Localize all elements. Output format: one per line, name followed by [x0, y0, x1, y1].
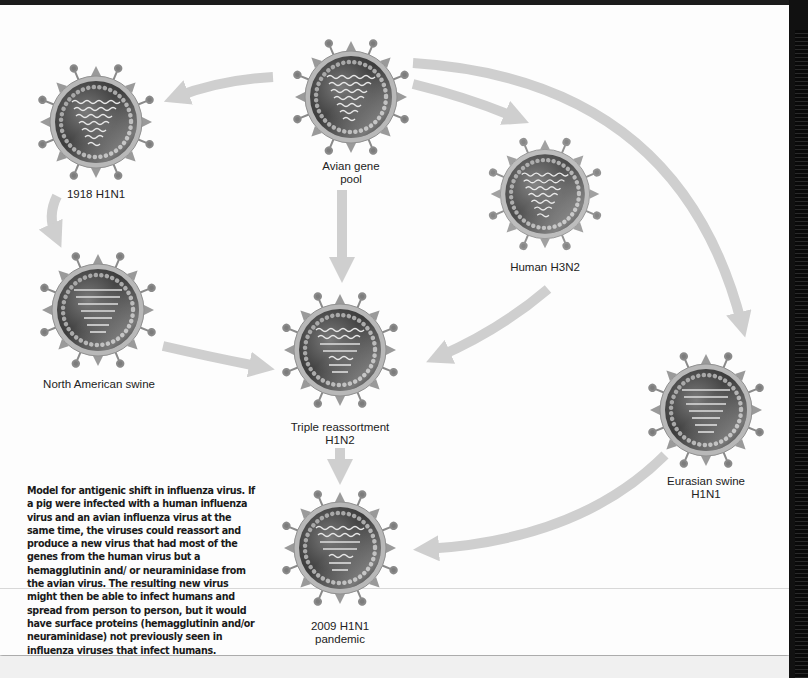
- virus-eurasian-swine: [648, 352, 764, 468]
- label-eurasian-swine: Eurasian swine H1N1: [667, 475, 745, 501]
- label-avian-gene-pool: Avian gene pool: [322, 160, 379, 186]
- virus-human-h3n2: [489, 138, 601, 250]
- virus-1918-h1n1: [38, 64, 154, 180]
- arrow-avian-to-1918: [176, 77, 273, 97]
- arrow-eurasian-to-2009: [426, 455, 665, 549]
- arrow-1918-to-naswine: [52, 196, 57, 236]
- label-line: 2009 H1N1: [311, 620, 369, 633]
- label-line: North American swine: [43, 378, 155, 391]
- label-triple-reassortment: Triple reassortment H1N2: [291, 421, 390, 447]
- virus-north-american-swine: [40, 252, 156, 368]
- virus-2009-h1n1-pandemic: [282, 490, 398, 606]
- virus-avian-gene-pool: [293, 39, 409, 155]
- label-line: pool: [322, 173, 379, 186]
- label-north-american-swine: North American swine: [43, 378, 155, 391]
- figure-caption: Model for antigenic shift in influenza v…: [27, 484, 257, 657]
- label-line: Triple reassortment: [291, 421, 390, 434]
- label-line: H1N1: [667, 488, 745, 501]
- label-line: Eurasian swine: [667, 475, 745, 488]
- virus-triple-reassortment: [282, 292, 398, 408]
- arrow-h3n2-to-triple: [438, 289, 548, 357]
- label-1918-h1n1: 1918 H1N1: [67, 188, 125, 201]
- arrows: [52, 63, 742, 549]
- label-line: H1N2: [291, 434, 390, 447]
- label-2009-h1n1-pandemic: 2009 H1N1 pandemic: [311, 620, 369, 646]
- label-line: 1918 H1N1: [67, 188, 125, 201]
- label-line: Human H3N2: [510, 261, 580, 274]
- label-line: pandemic: [311, 633, 369, 646]
- right-dark-edge: [789, 0, 808, 678]
- arrow-naswine-to-triple: [163, 346, 262, 367]
- label-line: Avian gene: [322, 160, 379, 173]
- label-human-h3n2: Human H3N2: [510, 261, 580, 274]
- arrow-avian-to-h3n2: [413, 84, 517, 118]
